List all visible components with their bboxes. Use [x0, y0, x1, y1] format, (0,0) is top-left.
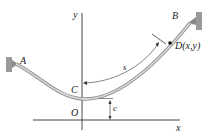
point-d-marker — [168, 41, 172, 45]
catenary-diagram: y x O C A B D(x,y) s c — [0, 0, 214, 135]
support-a-label: A — [19, 55, 27, 66]
point-c-label: C — [71, 84, 78, 95]
arc-length-label: s — [123, 62, 127, 72]
y-axis-label: y — [72, 9, 78, 20]
height-c-label: c — [113, 103, 117, 113]
arc-length-s-dimension — [83, 34, 166, 85]
x-axis-label: x — [175, 122, 181, 133]
support-b-label: B — [172, 10, 178, 21]
height-c-dimension — [99, 99, 113, 121]
origin-label: O — [71, 107, 78, 118]
cable — [16, 23, 190, 99]
point-d-label: D(x,y) — [174, 40, 201, 52]
support-right-icon — [188, 12, 202, 30]
